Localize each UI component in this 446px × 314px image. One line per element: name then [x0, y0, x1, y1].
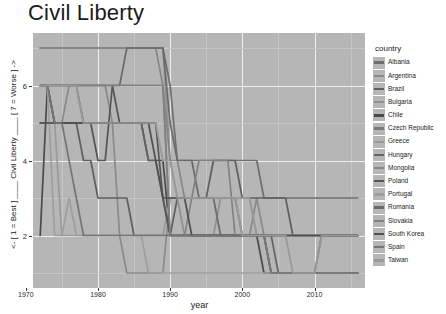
legend-swatch-icon [373, 175, 385, 187]
legend-swatch-icon [373, 123, 385, 135]
legend-line-icon [374, 206, 384, 208]
legend-item[interactable]: Czech Republic [373, 122, 446, 135]
page-title: Civil Liberty [28, 0, 144, 26]
x-tick-mark [98, 288, 99, 291]
series-line [40, 48, 358, 236]
legend-swatch-icon [373, 215, 385, 227]
legend-swatch-icon [373, 57, 385, 69]
legend-item[interactable]: Romania [373, 201, 446, 214]
legend-item-label: Slovakia [388, 218, 413, 225]
legend-item[interactable]: Portugal [373, 188, 446, 201]
legend-item-label: Hungary [388, 152, 413, 159]
series-line [40, 86, 358, 274]
legend-swatch-icon [373, 136, 385, 148]
x-tick-label: 1980 [90, 291, 106, 298]
legend-line-icon [374, 61, 384, 63]
legend-line-icon [374, 154, 384, 156]
series-line [40, 48, 358, 236]
x-tick-label: 1990 [162, 291, 178, 298]
series-line [40, 48, 358, 236]
legend-item-label: Albania [388, 59, 410, 66]
series-line [40, 86, 358, 274]
legend-line-icon [374, 88, 384, 90]
legend-item[interactable]: Albania [373, 56, 446, 69]
legend-swatch-icon [373, 96, 385, 108]
legend-items: AlbaniaArgentinaBrazilBulgariaChileCzech… [373, 56, 446, 267]
legend-item[interactable]: Argentina [373, 69, 446, 82]
legend-swatch-icon [373, 109, 385, 121]
legend-swatch-icon [373, 149, 385, 161]
legend-item[interactable]: Taiwan [373, 254, 446, 267]
series-line [40, 86, 358, 274]
x-tick-mark [242, 288, 243, 291]
legend-item[interactable]: Slovakia [373, 214, 446, 227]
legend-item-label: Czech Republic [388, 125, 434, 132]
series-line [40, 86, 358, 274]
legend-line-icon [374, 167, 384, 169]
series-layer [33, 33, 365, 288]
legend: country AlbaniaArgentinaBrazilBulgariaCh… [373, 44, 446, 267]
legend-swatch-icon [373, 188, 385, 200]
legend-swatch-icon [373, 254, 385, 266]
series-line [40, 86, 358, 274]
y-tick-mark [29, 86, 32, 87]
legend-item-label: Bulgaria [388, 99, 412, 106]
legend-swatch-icon [373, 83, 385, 95]
legend-line-icon [374, 246, 384, 248]
y-tick-mark [29, 236, 32, 237]
legend-swatch-icon [373, 162, 385, 174]
legend-swatch-icon [373, 70, 385, 82]
series-line [40, 86, 358, 274]
legend-line-icon [374, 233, 384, 235]
legend-item[interactable]: Hungary [373, 148, 446, 161]
legend-item-label: Mongolia [388, 165, 414, 172]
x-tick-mark [170, 288, 171, 291]
legend-line-icon [374, 75, 384, 77]
y-tick-label: 2 [23, 231, 27, 240]
series-line [40, 86, 358, 274]
legend-item-label: Brazil [388, 86, 404, 93]
legend-item[interactable]: Greece [373, 135, 446, 148]
x-tick-label: 2010 [307, 291, 323, 298]
y-tick-label: 4 [23, 156, 27, 165]
x-tick-mark [26, 288, 27, 291]
chart-root: Civil Liberty 246 19701980199020002010 y… [0, 0, 446, 314]
legend-line-icon [374, 180, 384, 182]
legend-line-icon [374, 127, 384, 129]
legend-line-icon [374, 141, 384, 143]
legend-item[interactable]: South Korea [373, 227, 446, 240]
legend-title: country [375, 44, 446, 53]
series-line [40, 86, 358, 274]
series-line [40, 86, 358, 274]
legend-item-label: Chile [388, 112, 403, 119]
legend-swatch-icon [373, 228, 385, 240]
x-tick-label: 2000 [235, 291, 251, 298]
legend-item-label: Spain [388, 244, 405, 251]
legend-line-icon [374, 220, 384, 222]
series-line [40, 123, 358, 236]
legend-swatch-icon [373, 202, 385, 214]
y-tick-label: 6 [23, 81, 27, 90]
legend-line-icon [374, 193, 384, 195]
legend-line-icon [374, 259, 384, 261]
legend-item[interactable]: Brazil [373, 82, 446, 95]
x-axis-label: year [0, 300, 399, 310]
legend-item[interactable]: Spain [373, 241, 446, 254]
legend-item-label: South Korea [388, 231, 424, 238]
series-line [40, 123, 358, 236]
y-tick-mark [29, 161, 32, 162]
x-tick-label: 1970 [18, 291, 34, 298]
plot-area [33, 33, 365, 288]
legend-item[interactable]: Bulgaria [373, 96, 446, 109]
legend-swatch-icon [373, 241, 385, 253]
legend-item[interactable]: Chile [373, 109, 446, 122]
legend-item-label: Portugal [388, 191, 412, 198]
legend-item-label: Greece [388, 138, 409, 145]
legend-line-icon [374, 101, 384, 103]
legend-item[interactable]: Mongolia [373, 162, 446, 175]
legend-item-label: Poland [388, 178, 408, 185]
y-axis-label: <- [ 1 = Best ] ____ Civil Liberty ____ … [9, 30, 18, 280]
legend-item-label: Taiwan [388, 257, 408, 264]
legend-item[interactable]: Poland [373, 175, 446, 188]
legend-item-label: Romania [388, 204, 414, 211]
